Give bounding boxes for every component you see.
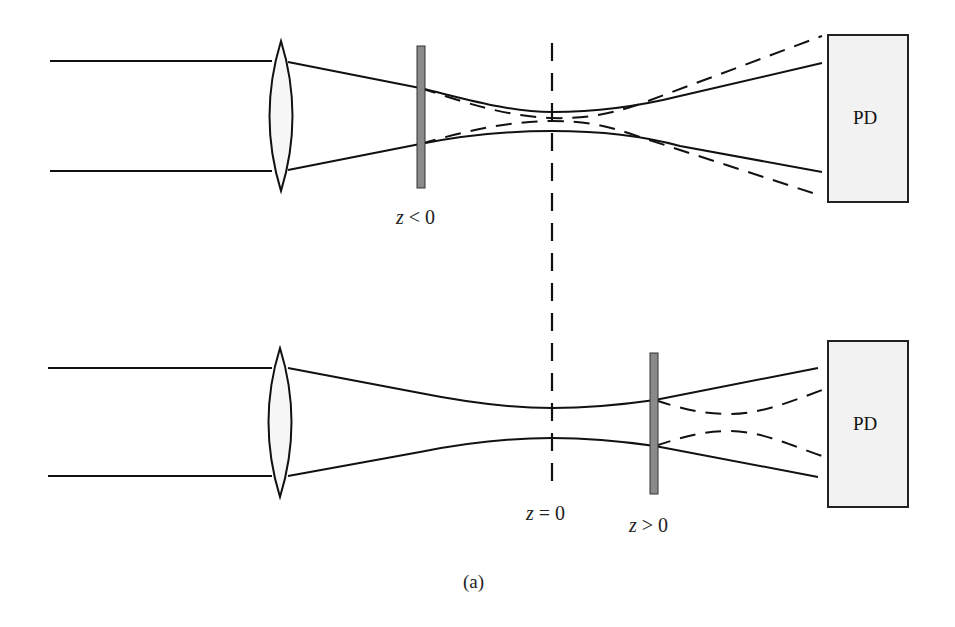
- focal-position-label: z = 0: [526, 502, 565, 525]
- z-variable: z: [396, 206, 404, 228]
- diagram-svg: [0, 0, 955, 627]
- bottom-detector-label: PD: [853, 413, 877, 435]
- top-sample: [417, 46, 425, 188]
- bottom-lens-icon: [269, 348, 292, 497]
- bottom-sample: [650, 353, 658, 494]
- z-variable: z: [526, 502, 534, 524]
- top-beam-dashed-lower: [420, 121, 822, 196]
- figure-caption: (a): [463, 571, 484, 593]
- bottom-sample-position-label: z > 0: [629, 514, 668, 537]
- top-detector-label: PD: [853, 107, 877, 129]
- top-beam-lower: [288, 131, 822, 172]
- bottom-beam-dashed-lower: [655, 431, 822, 456]
- equality-text: = 0: [534, 502, 565, 524]
- z-variable: z: [629, 514, 637, 536]
- bottom-beam-dashed-upper: [655, 390, 822, 414]
- top-beam-upper: [288, 62, 822, 112]
- top-lens-icon: [270, 41, 293, 191]
- inequality-text: < 0: [404, 206, 435, 228]
- top-sample-position-label: z < 0: [396, 206, 435, 229]
- top-panel: [50, 35, 908, 202]
- bottom-panel: [48, 341, 908, 507]
- zscan-diagram: PD PD z < 0 z = 0 z > 0 (a): [0, 0, 955, 627]
- inequality-text: > 0: [637, 514, 668, 536]
